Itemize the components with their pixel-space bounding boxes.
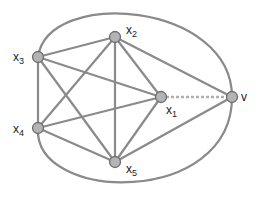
edge-x3-x1 [38, 57, 161, 97]
node-x5 [110, 157, 121, 168]
node-v [227, 92, 238, 103]
graph-diagram: x1x2x3x4x5v [0, 0, 261, 198]
node-x4 [33, 123, 44, 134]
edge-x2-x3 [38, 37, 115, 57]
label-x1: x1 [166, 104, 177, 119]
node-x1 [156, 92, 167, 103]
edges [38, 37, 232, 162]
label-x4: x4 [13, 123, 24, 138]
edge-x2-x4 [38, 37, 115, 128]
label-x2: x2 [126, 24, 137, 39]
edge-x3-x5 [38, 57, 115, 162]
label-x3: x3 [13, 51, 24, 66]
label-x5: x5 [126, 163, 137, 178]
edge-x2-x1 [115, 37, 161, 97]
node-x3 [33, 52, 44, 63]
label-v: v [241, 91, 247, 103]
node-x2 [110, 32, 121, 43]
